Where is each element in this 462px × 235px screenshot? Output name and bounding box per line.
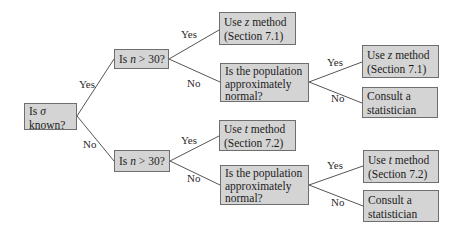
node-population-normal-top: Is the population approximately normal? xyxy=(220,63,309,102)
node-is-n-gt-30-bottom: Is n > 30? xyxy=(114,150,170,172)
node-text: method xyxy=(392,154,429,166)
node-text: method xyxy=(249,16,286,28)
edge-label-normbot-no: No xyxy=(331,196,344,208)
node-text: normal? xyxy=(225,90,304,103)
edge-label-nbot-no: No xyxy=(187,172,200,184)
decision-tree-diagram: Is σ known? Is n > 30? Is n > 30? Use z … xyxy=(0,0,462,235)
node-text: (Section 7.1) xyxy=(367,62,434,76)
node-text: (Section 7.1) xyxy=(224,29,291,43)
edge-label-ntop-yes: Yes xyxy=(181,28,197,40)
node-text: approximately xyxy=(225,78,304,91)
edge-label-ntop-no: No xyxy=(187,77,200,89)
node-text: Use xyxy=(224,16,245,28)
node-text: > 30? xyxy=(136,53,165,65)
node-text: (Section 7.2) xyxy=(368,167,434,181)
node-use-t-method-mid: Use t method (Section 7.2) xyxy=(219,120,296,151)
node-text: Is the population xyxy=(225,65,304,78)
edge-label-root-no: No xyxy=(83,138,96,150)
node-use-t-method-right: Use t method (Section 7.2) xyxy=(363,150,439,183)
node-population-normal-bottom: Is the population approximately normal? xyxy=(220,165,309,205)
node-text: Consult a xyxy=(367,89,433,103)
edge-label-nbot-yes: Yes xyxy=(181,134,197,146)
node-text: approximately xyxy=(225,180,304,193)
edge-label-root-yes: Yes xyxy=(79,78,95,90)
node-text: known? xyxy=(29,118,72,132)
node-text: method xyxy=(248,123,285,135)
node-text: Consult a xyxy=(368,193,434,207)
node-text: statistician xyxy=(367,103,433,117)
node-text: Use xyxy=(367,49,388,61)
node-text: Is the population xyxy=(225,167,304,180)
node-use-z-method-right: Use z method (Section 7.1) xyxy=(362,45,439,78)
node-is-n-gt-30-top: Is n > 30? xyxy=(114,49,169,69)
edge-label-normtop-no: No xyxy=(331,92,344,104)
node-text: method xyxy=(392,49,429,61)
node-text: Is xyxy=(119,155,130,167)
node-text: statistician xyxy=(368,207,434,221)
node-text: Use xyxy=(368,154,389,166)
node-text: Use xyxy=(224,123,245,135)
node-text: (Section 7.2) xyxy=(224,136,291,150)
sigma-symbol: σ xyxy=(40,105,46,117)
edge-label-normbot-yes: Yes xyxy=(327,159,343,171)
node-text: Is xyxy=(29,105,40,117)
edge-label-normtop-yes: Yes xyxy=(327,56,343,68)
node-consult-statistician-bottom: Consult a statistician xyxy=(363,190,439,222)
node-use-z-method-top: Use z method (Section 7.1) xyxy=(219,12,296,45)
node-consult-statistician-top: Consult a statistician xyxy=(362,87,438,118)
node-text: normal? xyxy=(225,192,304,205)
node-text: > 30? xyxy=(136,155,165,167)
node-is-sigma-known: Is σ known? xyxy=(24,103,77,130)
node-text: Is xyxy=(119,53,130,65)
